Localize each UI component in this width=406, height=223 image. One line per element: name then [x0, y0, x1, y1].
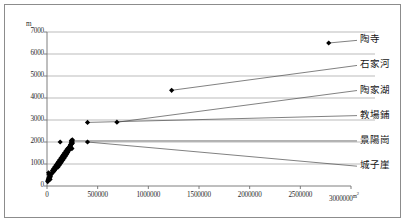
- leader-line-5: [88, 142, 357, 166]
- x-tick-label: 1000000: [123, 192, 173, 199]
- leader-line-3: [88, 116, 357, 123]
- data-point: [85, 120, 90, 125]
- chart-canvas: [0, 0, 406, 223]
- leader-line-1: [172, 65, 357, 90]
- x-axis-unit-label: m2: [353, 193, 359, 199]
- series-label-2: 陶家湖: [360, 86, 390, 96]
- leader-line-2: [117, 91, 357, 123]
- x-tick-label: 1500000: [174, 192, 224, 199]
- x-tick-label: 500000: [73, 192, 123, 199]
- x-tick-label: 3000000m2: [329, 192, 389, 203]
- series-label-4: 景陽崗: [360, 136, 390, 146]
- x-tick-label: 2500000: [275, 192, 325, 199]
- series-label-5: 城子崖: [360, 161, 390, 171]
- x-tick-label: 0: [22, 192, 72, 199]
- data-point: [169, 88, 174, 93]
- y-tick-label: 6000: [8, 50, 44, 57]
- y-tick-label: 0: [8, 182, 44, 189]
- data-point: [58, 139, 63, 144]
- x-tick-label: 2000000: [225, 192, 275, 199]
- y-tick-label: 5000: [8, 72, 44, 79]
- data-point: [326, 40, 331, 45]
- data-point: [85, 139, 90, 144]
- series-label-1: 石家河: [360, 60, 390, 70]
- y-tick-label: 7000: [8, 28, 44, 35]
- gridlines-group: [47, 32, 375, 164]
- series-label-0: 陶寺: [360, 35, 380, 45]
- y-tick-label: 1000: [8, 160, 44, 167]
- y-tick-label: 4000: [8, 94, 44, 101]
- y-tick-label: 2000: [8, 138, 44, 145]
- axes-group: [44, 32, 351, 189]
- data-points-group: [45, 40, 331, 184]
- y-tick-label: 3000: [8, 116, 44, 123]
- leader-line-0: [329, 40, 357, 43]
- annotation-leader-lines: [72, 40, 357, 166]
- figure-container: m 01000200030004000500060007000 05000001…: [0, 0, 406, 223]
- series-label-3: 教場鋪: [360, 111, 390, 121]
